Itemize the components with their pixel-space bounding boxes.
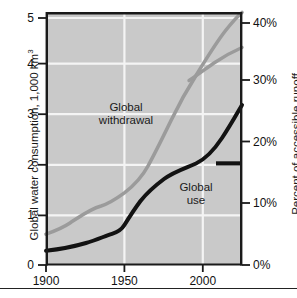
y2-tick-label-20: 20% — [253, 135, 293, 149]
y-tick-label-0: 0 — [8, 258, 34, 272]
y-tick-label-2: 2 — [8, 158, 34, 172]
y-tick-label-3: 3 — [8, 107, 34, 121]
y2-tick-label-0: 0% — [253, 258, 293, 272]
y-tick-label-5: 5 — [8, 11, 34, 25]
y2-tick-label-40: 40% — [253, 16, 293, 30]
x-tick-label-1900: 1900 — [16, 274, 76, 288]
annotation-global-use: Global use — [172, 181, 220, 207]
annotation-global-withdrawal-line1: Global — [89, 101, 163, 114]
y2-tick-label-30: 30% — [253, 73, 293, 87]
annotation-global-withdrawal-line2: withdrawal — [89, 114, 163, 127]
ticks-bottom-axis — [46, 265, 203, 272]
x-tick-label-2000: 2000 — [173, 274, 233, 288]
figure-bottom-rule — [0, 288, 297, 289]
annotation-global-use-line2: use — [172, 194, 220, 207]
annotation-global-withdrawal: Global withdrawal — [89, 101, 163, 127]
ticks-right-axis — [242, 23, 250, 265]
y-tick-label-4: 4 — [8, 57, 34, 71]
annotation-global-use-line1: Global — [172, 181, 220, 194]
y-tick-label-1: 1 — [8, 208, 34, 222]
y-axis-left-title-exponent: 3 — [26, 49, 35, 53]
chart-figure: Global water consumption, 1,000 km3 Perc… — [0, 0, 297, 298]
x-tick-label-1950: 1950 — [94, 274, 154, 288]
y2-tick-label-10: 10% — [253, 196, 293, 210]
chart-plot-svg — [0, 0, 297, 298]
